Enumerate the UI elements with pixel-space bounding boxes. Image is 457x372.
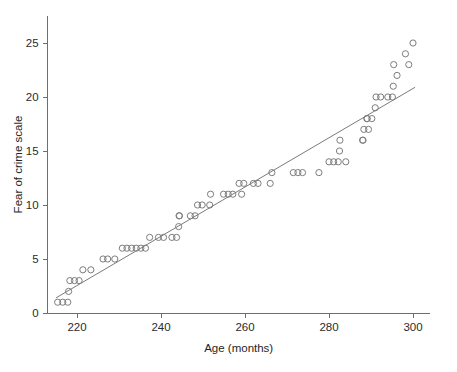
x-axis-title: Age (months) — [204, 342, 273, 354]
data-point — [299, 170, 305, 176]
data-point — [410, 40, 416, 46]
data-point — [192, 213, 198, 219]
data-point — [267, 180, 273, 186]
data-point — [316, 170, 322, 176]
x-tick-label: 220 — [67, 321, 86, 333]
data-point — [337, 137, 343, 143]
data-point — [360, 137, 366, 143]
plot-canvas: 0510152025220240260280300Age (months)Fea… — [0, 0, 457, 372]
x-tick-label: 240 — [151, 321, 170, 333]
y-tick-label: 5 — [32, 253, 38, 265]
data-point — [80, 267, 86, 273]
data-point — [76, 278, 82, 284]
y-tick-label: 10 — [26, 199, 39, 211]
data-point — [391, 62, 397, 68]
data-point — [147, 234, 153, 240]
data-point — [176, 213, 182, 219]
data-point — [343, 159, 349, 165]
data-point — [88, 267, 94, 273]
data-point — [394, 72, 400, 78]
y-tick-label: 15 — [26, 145, 39, 157]
data-point — [105, 256, 111, 262]
data-point — [142, 245, 148, 251]
data-point — [365, 126, 371, 132]
axis-labels-group: 0510152025220240260280300Age (months)Fea… — [12, 37, 423, 354]
y-tick-label: 0 — [32, 307, 38, 319]
y-tick-label: 20 — [26, 91, 39, 103]
data-point — [378, 94, 384, 100]
data-point — [372, 105, 378, 111]
data-point — [241, 180, 247, 186]
x-tick-label: 260 — [235, 321, 254, 333]
data-point — [239, 191, 245, 197]
data-point — [389, 94, 395, 100]
y-tick-label: 25 — [26, 37, 39, 49]
axes-group — [43, 16, 430, 318]
data-point — [199, 202, 205, 208]
data-point — [207, 202, 213, 208]
data-point — [406, 62, 412, 68]
data-point — [335, 159, 341, 165]
data-point — [112, 256, 118, 262]
data-point — [402, 51, 408, 57]
data-point — [173, 234, 179, 240]
x-tick-label: 300 — [403, 321, 422, 333]
y-axis-title: Fear of crime scale — [12, 116, 24, 214]
data-point — [176, 224, 182, 230]
data-point — [255, 180, 261, 186]
x-tick-label: 280 — [319, 321, 338, 333]
data-points-group — [55, 40, 417, 305]
data-point — [207, 191, 213, 197]
scatter-plot-figure: 0510152025220240260280300Age (months)Fea… — [0, 0, 457, 372]
data-point — [390, 83, 396, 89]
data-point — [336, 148, 342, 154]
